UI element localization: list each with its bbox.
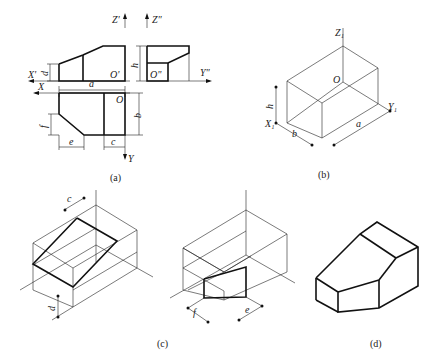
dim-f: f <box>38 124 49 128</box>
top-view: a X O b f e c Y (a) <box>33 78 143 184</box>
origin-o: O <box>116 94 123 105</box>
isometric-box-b: Z₁ O Y₁ X₁ h b a (b) <box>264 27 397 181</box>
axis-label-y-double-prime: Y" <box>200 67 211 78</box>
dim-e: e <box>69 136 74 147</box>
origin-o-b: O <box>333 74 340 85</box>
isometric-cut-e: f e <box>170 190 295 324</box>
front-view: Z' X' O' d <box>27 13 130 83</box>
dim-a: a <box>89 78 94 89</box>
dim-d-c: d <box>46 305 57 311</box>
dim-b: b <box>132 113 143 118</box>
caption-b: (b) <box>318 169 330 181</box>
caption-c: (c) <box>157 338 168 350</box>
axis-label-z1: Z₁ <box>335 27 344 38</box>
caption-a: (a) <box>110 172 121 184</box>
axis-label-x1: X₁ <box>264 118 275 129</box>
axis-label-z-double-prime: Z" <box>152 14 163 25</box>
caption-d: (d) <box>370 338 382 350</box>
axis-label-z-prime: Z' <box>112 14 121 25</box>
dim-c-c: c <box>67 193 72 204</box>
dim-h: h <box>129 63 140 68</box>
isometric-solid-d: (d) <box>316 222 418 350</box>
origin-o-prime: O' <box>110 69 120 80</box>
origin-o-double-prime: O" <box>150 69 162 80</box>
axis-label-x-prime: X' <box>27 69 37 80</box>
technical-drawing: Z' X' O' d Z" Y" O" h a X O b <box>0 0 438 363</box>
dim-h-b: h <box>264 104 275 109</box>
dim-e-e: e <box>245 304 250 315</box>
dim-a-b: a <box>356 118 361 129</box>
dim-c: c <box>111 136 116 147</box>
dim-d: d <box>39 70 50 76</box>
isometric-cut-c: c d (c) <box>20 190 168 350</box>
side-view: Z" Y" O" h <box>129 13 212 83</box>
axis-label-x: X <box>37 81 45 92</box>
axis-label-y: Y <box>128 153 135 164</box>
dim-f-e: f <box>193 307 197 318</box>
dim-b-b: b <box>292 128 297 139</box>
